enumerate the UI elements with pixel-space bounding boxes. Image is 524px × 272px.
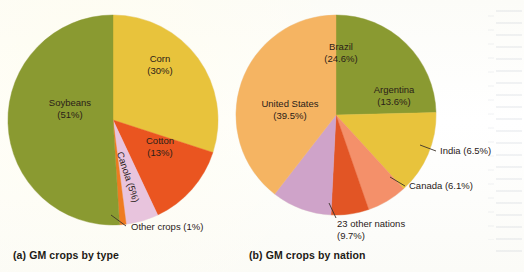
slice-label-name-india: India (6.5%) xyxy=(440,145,491,156)
slice-label-value-argentina: (13.6%) xyxy=(377,96,410,107)
slice-label-name-brazil: Brazil xyxy=(329,41,353,52)
panel-a-caption: (a) GM crops by type xyxy=(13,249,119,261)
pie-chart-gm-crops-by-nation: Brazil(24.6%)Argentina(13.6%)India (6.5%… xyxy=(0,0,524,272)
figure-root: Corn(30%)Cotton(13%)Canola (5%)Other cro… xyxy=(0,0,524,272)
slice-label-brazil: Brazil(24.6%) xyxy=(324,41,357,64)
slice-label-india: India (6.5%) xyxy=(440,145,491,156)
slice-label-canada: Canada (6.1%) xyxy=(409,180,473,191)
slice-label-name-23-other-nations: 23 other nations xyxy=(337,218,405,229)
slice-label-argentina: Argentina(13.6%) xyxy=(374,84,415,107)
slice-label-value-united-states: (39.5%) xyxy=(273,110,306,121)
slice-label-name-argentina: Argentina xyxy=(374,84,415,95)
slice-label-name-united-states: United States xyxy=(261,98,318,109)
slice-label-23-other-nations: 23 other nations(9.7%) xyxy=(337,218,405,241)
slice-label-value-brazil: (24.6%) xyxy=(324,53,357,64)
slice-label-name-canada: Canada (6.1%) xyxy=(409,180,473,191)
panel-b-caption: (b) GM crops by nation xyxy=(249,249,366,261)
slice-label-value-23-other-nations: (9.7%) xyxy=(337,230,365,241)
